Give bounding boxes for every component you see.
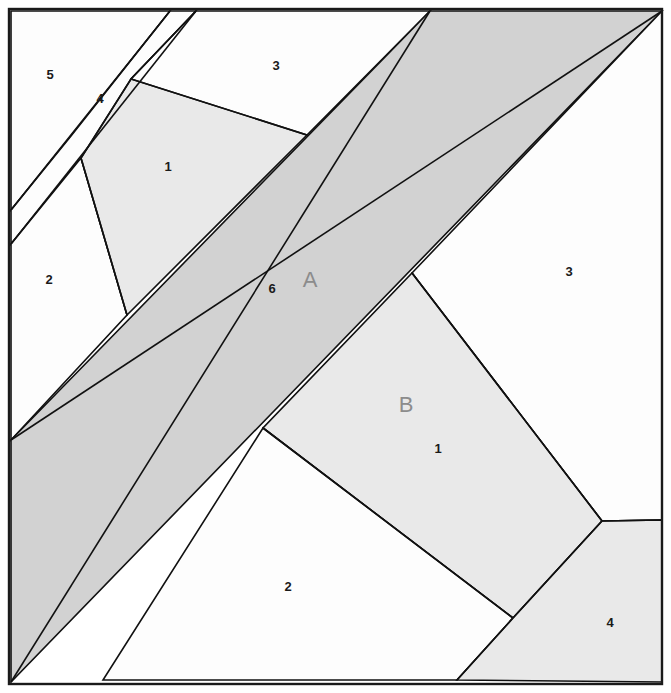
boundary-edge-11 [602, 520, 662, 521]
regions-layer [11, 11, 662, 682]
diagram-canvas: 54213A63B124 [0, 0, 671, 693]
label-parcel-2-left: 2 [45, 272, 52, 287]
label-parcel-1-upper: 1 [164, 159, 171, 174]
label-band-A: A [303, 267, 318, 292]
label-parcel-B-1: B [399, 392, 414, 417]
parcel-subdivision-figure: 54213A63B124 [0, 0, 671, 693]
label-parcel-5: 5 [46, 67, 53, 82]
label-parcel-strip-4: 4 [96, 91, 104, 106]
sublabel-parcel-B-1: 1 [434, 441, 441, 456]
label-parcel-2-lower: 2 [284, 579, 291, 594]
sublabel-band-A: 6 [268, 281, 275, 296]
label-parcel-3-right: 3 [565, 264, 572, 279]
label-parcel-3-upper: 3 [272, 58, 279, 73]
label-parcel-4-lower-right: 4 [606, 615, 614, 630]
